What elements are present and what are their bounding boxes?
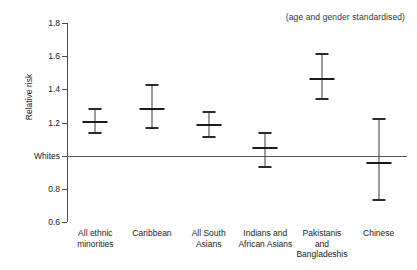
point-estimate-marker bbox=[309, 78, 334, 80]
y-axis-tick-label: 1.4 bbox=[48, 84, 60, 94]
plot-area: All ethnicminoritiesCaribbeanAll SouthAs… bbox=[67, 0, 407, 270]
confidence-interval-whisker bbox=[378, 118, 379, 199]
y-axis-tick-label: 0.6 bbox=[48, 217, 60, 227]
point-estimate-marker bbox=[196, 124, 221, 126]
point-estimate-marker bbox=[253, 147, 278, 149]
data-point-group: Chinese bbox=[350, 0, 407, 270]
y-axis-tick-label: 1.8 bbox=[48, 18, 60, 28]
point-estimate-marker bbox=[83, 121, 108, 123]
y-axis-tick-label: Whites bbox=[34, 151, 60, 161]
confidence-interval-whisker bbox=[321, 53, 322, 98]
y-axis-label: Relative risk bbox=[24, 52, 34, 142]
ci-upper-cap bbox=[145, 84, 158, 86]
ci-upper-cap bbox=[259, 132, 272, 134]
y-axis-tick-label: 0.8 bbox=[48, 184, 60, 194]
ci-lower-cap bbox=[202, 136, 215, 138]
ci-upper-cap bbox=[202, 111, 215, 113]
point-estimate-marker bbox=[366, 162, 391, 164]
y-axis-tick-label: 1.6 bbox=[48, 51, 60, 61]
ci-upper-cap bbox=[315, 53, 328, 55]
x-axis-tick-label: Chinese bbox=[342, 228, 416, 239]
ci-lower-cap bbox=[145, 127, 158, 129]
ci-lower-cap bbox=[372, 199, 385, 201]
ci-upper-cap bbox=[89, 108, 102, 110]
ci-lower-cap bbox=[259, 166, 272, 168]
ci-lower-cap bbox=[89, 132, 102, 134]
ci-upper-cap bbox=[372, 118, 385, 120]
ci-lower-cap bbox=[315, 98, 328, 100]
relative-risk-chart: (age and gender standardised) Relative r… bbox=[0, 0, 417, 270]
y-axis-tick-label: 1.2 bbox=[48, 118, 60, 128]
point-estimate-marker bbox=[139, 108, 164, 110]
confidence-interval-whisker bbox=[151, 84, 152, 127]
